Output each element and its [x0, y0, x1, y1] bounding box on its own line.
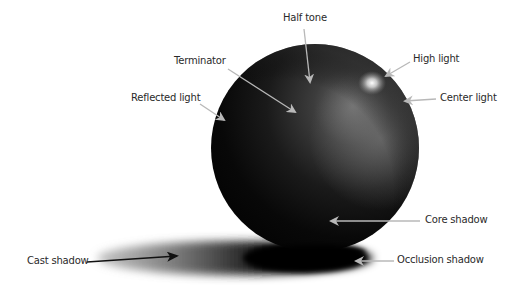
occlusion-shadow-shape [270, 245, 366, 259]
specular-highlight [358, 71, 386, 95]
label-cast-shadow: Cast shadow [27, 255, 89, 266]
label-occlusion-shadow: Occlusion shadow [397, 254, 484, 265]
arrow-high-light [386, 62, 410, 76]
label-high-light: High light [413, 53, 459, 64]
label-reflected-light: Reflected light [131, 92, 200, 103]
label-half-tone: Half tone [283, 12, 327, 23]
label-terminator: Terminator [174, 55, 226, 66]
label-core-shadow: Core shadow [425, 214, 487, 225]
label-center-light: Center light [440, 92, 497, 103]
arrow-center-light [405, 99, 436, 101]
sphere-shading-diagram: Half tone Terminator Reflected light Hig… [0, 0, 516, 289]
diagram-canvas [0, 0, 516, 289]
